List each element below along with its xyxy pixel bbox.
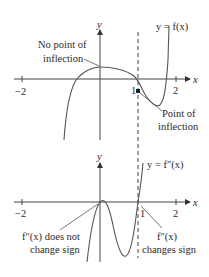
bottom-x-label: x xyxy=(192,197,198,208)
bottom-tick-neg2-label: −2 xyxy=(15,208,26,219)
bottom-plot: y x −2 1 2 y = f″(x) f″(x) does not chan… xyxy=(14,151,198,262)
inflection-line1: Point of xyxy=(162,108,196,119)
top-x-label: x xyxy=(192,74,198,85)
top-tick-1: 1 xyxy=(131,85,136,96)
sign-change-line1: f″(x) xyxy=(157,231,178,243)
top-tick-neg2: −2 xyxy=(15,86,26,97)
f-double-prime-curve xyxy=(87,163,143,262)
inflection-line2: inflection xyxy=(158,121,199,132)
no-sign-change-line1: f″(x) does not xyxy=(22,231,80,243)
no-sign-change-line2: change sign xyxy=(30,244,81,255)
bottom-curve-label: y = f″(x) xyxy=(147,159,184,171)
top-y-label: y xyxy=(96,19,102,30)
sign-change-line2: changes sign xyxy=(142,244,197,255)
top-curve-label: y = f(x) xyxy=(156,21,189,33)
leader-inflection xyxy=(140,93,162,111)
top-plot: y x −2 1 2 y = f(x) No point of inflecti… xyxy=(14,19,199,140)
no-inflection-line1: No point of xyxy=(38,39,87,50)
top-tick-2: 2 xyxy=(173,85,178,96)
no-inflection-line2: inflection xyxy=(43,53,84,64)
inflection-point-marker xyxy=(136,89,140,93)
bottom-y-label: y xyxy=(96,151,102,162)
leader-no-inflection xyxy=(84,59,99,66)
diagram-canvas: y x −2 1 2 y = f(x) No point of inflecti… xyxy=(0,0,209,277)
bottom-tick-2-label: 2 xyxy=(173,208,178,219)
